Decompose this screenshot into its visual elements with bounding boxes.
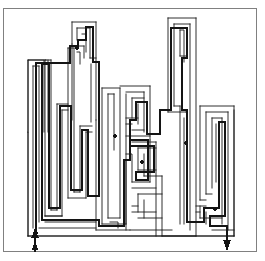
junction-dot [140,160,144,164]
junction-dot [75,46,79,50]
junction-dot [184,141,188,145]
junction-dot [113,134,117,138]
junction-dot [213,207,217,211]
figure-root: Solved maze puzzle Rectangular line maze… [0,0,265,261]
maze-figure: Solved maze puzzle Rectangular line maze… [0,0,265,261]
